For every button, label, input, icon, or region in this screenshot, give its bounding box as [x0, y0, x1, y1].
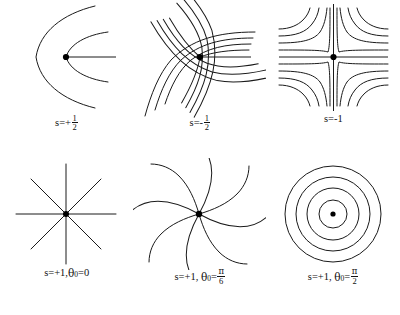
diagram-s-plus-one-circular: [267, 158, 400, 270]
fraction-pi-over-two: π2: [351, 267, 359, 286]
theta-subscript: 0: [207, 275, 211, 283]
spiral-arm: [199, 214, 247, 264]
panel-s-plus-one-spiral: s=+1, θ0=π6: [133, 158, 266, 315]
diagram-s-plus-one-radial: [0, 158, 133, 270]
hyperbola-family-q2: [279, 8, 330, 52]
fraction-one-half: 12: [204, 114, 210, 133]
label-equals: =: [211, 272, 217, 283]
fraction-denominator: 2: [72, 123, 78, 132]
defect-core-dot: [330, 54, 336, 60]
defect-core-dot: [197, 54, 203, 60]
fraction-pi-over-six: π6: [217, 267, 225, 286]
theta-subscript: 0: [74, 271, 78, 279]
spiral-arm: [149, 214, 199, 262]
label-prefix: s=-: [190, 118, 204, 129]
label-prefix: s=+1,: [44, 268, 68, 279]
fraction-one-half: 12: [72, 114, 78, 133]
diagram-s-minus-one-half: [133, 0, 266, 118]
defect-core-dot: [63, 54, 69, 60]
spiral-arm: [166, 158, 235, 214]
label-s-minus-one-half: s=-12: [190, 114, 211, 133]
panel-s-minus-one-half: s=-12: [133, 0, 266, 158]
label-s-minus-one: s=-1: [324, 114, 343, 125]
panel-s-plus-one-circular: s=+1, θ0=π2: [267, 158, 400, 315]
hyperbola-family-q3: [279, 62, 330, 106]
label-prefix: s=+1,: [174, 272, 198, 283]
hyperbola-family-q1: [337, 8, 388, 52]
label-s-plus-one-half: s=+12: [55, 114, 78, 133]
defect-core-dot: [330, 211, 335, 216]
label-s-plus-one-radial: s=+1,θ0=0: [44, 268, 89, 279]
theta-subscript: 0: [341, 275, 345, 283]
diagram-s-minus-one: [267, 0, 400, 118]
spiral-arm: [151, 164, 199, 214]
fraction-denominator: 2: [351, 277, 357, 286]
label-prefix: s=+: [55, 118, 71, 129]
defect-core-dot: [196, 210, 202, 216]
spiral-arm: [199, 166, 249, 214]
label-s-plus-one-circular: s=+1, θ0=π2: [308, 268, 359, 287]
label-value: 0: [84, 268, 89, 279]
label-s-plus-one-spiral: s=+1, θ0=π6: [174, 268, 225, 287]
diagram-s-plus-one-spiral: [133, 158, 266, 270]
disclination-figure-grid: s=+12: [0, 0, 400, 315]
panel-s-minus-one: s=-1: [267, 0, 400, 158]
diagram-s-plus-one-half: [0, 0, 133, 118]
label-prefix: s=-1: [324, 114, 343, 125]
hyperbola-family-q4: [337, 62, 388, 106]
panel-s-plus-one-radial: s=+1,θ0=0: [0, 158, 133, 315]
fraction-denominator: 2: [204, 123, 210, 132]
fraction-denominator: 6: [218, 277, 224, 286]
defect-core-dot: [63, 211, 69, 217]
panel-s-plus-one-half: s=+12: [0, 0, 133, 158]
spiral-arm: [164, 214, 233, 270]
label-equals: =: [344, 272, 350, 283]
label-prefix: s=+1,: [308, 272, 332, 283]
